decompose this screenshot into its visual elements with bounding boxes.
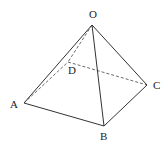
edge-OB [92, 25, 104, 126]
edge-BC [104, 85, 147, 126]
pyramid-diagram: O A B C D [0, 0, 168, 148]
label-O: O [89, 8, 97, 20]
edge-OD [68, 25, 92, 62]
edge-AD [24, 62, 68, 103]
edge-AB [24, 103, 104, 126]
label-A: A [10, 98, 18, 110]
hidden-edges [24, 25, 147, 103]
edge-DC [68, 62, 147, 85]
edge-OC [92, 25, 147, 85]
label-C: C [153, 79, 160, 91]
label-D: D [68, 64, 76, 76]
label-B: B [100, 130, 107, 142]
edge-OA [24, 25, 92, 103]
visible-edges [24, 25, 147, 126]
